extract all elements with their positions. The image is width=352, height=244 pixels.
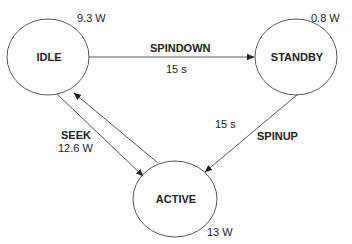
transition-spindown-label: SPINDOWN <box>150 42 211 54</box>
transition-seek-label: SEEK <box>61 129 91 141</box>
transition-spinup-label: SPINUP <box>257 130 298 142</box>
state-idle-power: 9.3 W <box>77 12 106 24</box>
state-diagram-canvas <box>0 0 352 244</box>
state-idle-label: IDLE <box>36 51 61 63</box>
state-active-label: ACTIVE <box>156 193 196 205</box>
state-standby-power: 0.8 W <box>311 12 340 24</box>
transition-seek-power: 12.6 W <box>58 142 93 154</box>
state-active-power: 13 W <box>207 226 233 238</box>
transition-spindown-duration: 15 s <box>166 63 187 75</box>
transition-spinup-duration: 15 s <box>215 118 236 130</box>
state-standby-label: STANDBY <box>271 51 323 63</box>
